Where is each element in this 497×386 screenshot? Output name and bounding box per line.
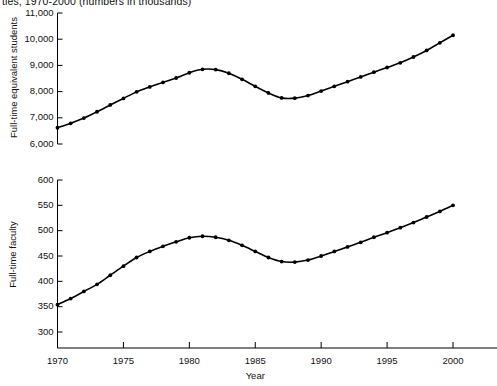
students-point [253, 84, 257, 88]
students-point [161, 81, 165, 85]
faculty-point [319, 254, 323, 258]
plot-canvas [0, 0, 497, 386]
students-point [346, 80, 350, 84]
faculty-point [108, 273, 112, 277]
faculty-point [267, 256, 271, 260]
faculty-point [359, 240, 363, 244]
students-point [398, 61, 402, 65]
chart-figure: ties, 1970-2000 (numbers in thousands) F… [0, 0, 497, 386]
faculty-point [346, 245, 350, 249]
faculty-point [332, 250, 336, 254]
faculty-point [280, 260, 284, 264]
faculty-point [82, 290, 86, 294]
faculty-point [122, 264, 126, 268]
faculty-point [201, 234, 205, 238]
faculty-point [425, 215, 429, 219]
students-point [438, 41, 442, 45]
students-point [135, 90, 139, 94]
axes-layer [58, 13, 497, 348]
faculty-point [135, 256, 139, 260]
faculty-point [148, 250, 152, 254]
series-layer [56, 33, 455, 306]
students-point [56, 126, 60, 130]
students-point [187, 71, 191, 75]
faculty-point [227, 238, 231, 242]
faculty-point [187, 236, 191, 240]
faculty-point [306, 258, 310, 262]
faculty-point [438, 210, 442, 214]
students-point [108, 103, 112, 107]
students-point [332, 84, 336, 88]
students-point [82, 116, 86, 120]
faculty-point [412, 221, 416, 225]
students-point [122, 97, 126, 101]
faculty-point [174, 240, 178, 244]
students-point [412, 55, 416, 59]
students-point [148, 85, 152, 89]
students-point [425, 49, 429, 53]
students-point [385, 66, 389, 70]
faculty-point [161, 244, 165, 248]
students-point [227, 71, 231, 75]
students-point [69, 121, 73, 125]
students-line [58, 35, 454, 127]
students-point [359, 75, 363, 79]
faculty-point [69, 297, 73, 301]
students-point [306, 94, 310, 98]
faculty-point [240, 243, 244, 247]
students-point [240, 77, 244, 81]
faculty-point [214, 235, 218, 239]
students-point [372, 70, 376, 74]
students-point [214, 68, 218, 72]
students-point [451, 33, 455, 37]
students-point [201, 67, 205, 71]
students-point [95, 110, 99, 114]
faculty-point [293, 260, 297, 264]
faculty-point [451, 203, 455, 207]
faculty-line [58, 205, 454, 304]
students-point [267, 91, 271, 95]
faculty-point [253, 250, 257, 254]
students-point [319, 89, 323, 93]
faculty-point [372, 235, 376, 239]
students-point [293, 96, 297, 100]
faculty-point [385, 231, 389, 235]
faculty-point [398, 226, 402, 230]
faculty-point [95, 282, 99, 286]
students-point [174, 76, 178, 80]
students-point [280, 96, 284, 100]
faculty-point [56, 303, 60, 307]
